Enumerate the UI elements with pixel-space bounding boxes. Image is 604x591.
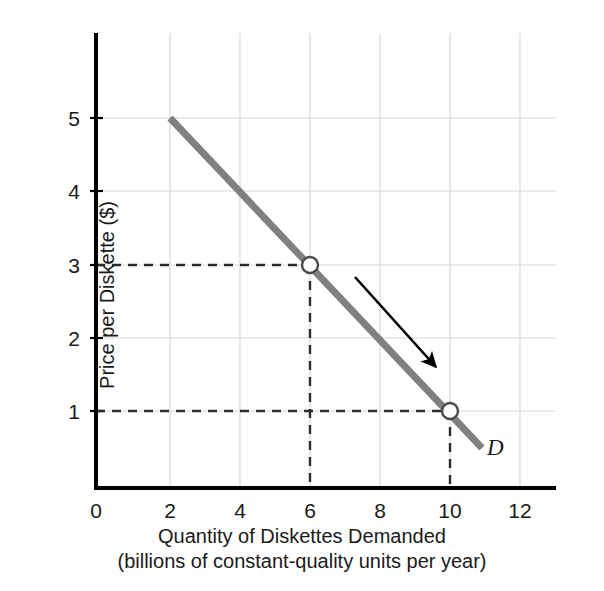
ytick-label-3: 3: [68, 255, 80, 276]
data-point-marker-6-3: [302, 257, 318, 273]
xtick-label-12: 12: [508, 500, 531, 521]
x-axis-title-line1: Quantity of Diskettes Demanded: [0, 524, 604, 549]
xtick-label-2: 2: [164, 500, 176, 521]
xtick-label-0: 0: [90, 500, 102, 521]
vertical-gridlines: [170, 33, 520, 488]
xtick-label-10: 10: [438, 500, 461, 521]
x-axis-title-line2: (billions of constant-quality units per …: [0, 549, 604, 574]
demand-curve: [170, 118, 482, 448]
ytick-label-1: 1: [68, 401, 80, 422]
guide-lines: [96, 265, 450, 488]
data-point-marker-10-1: [442, 403, 458, 419]
xtick-label-8: 8: [374, 500, 386, 521]
xtick-label-4: 4: [234, 500, 246, 521]
xtick-label-6: 6: [304, 500, 316, 521]
ytick-label-2: 2: [68, 328, 80, 349]
demand-curve-label: D: [487, 435, 504, 461]
demand-curve-chart: 5 4 3 2 1 0 2 4 6 8 10 12 Price per Disk…: [0, 0, 604, 591]
x-axis-title: Quantity of Diskettes Demanded (billions…: [0, 524, 604, 574]
ytick-label-5: 5: [68, 108, 80, 129]
ytick-label-4: 4: [68, 181, 80, 202]
y-axis-title: Price per Diskette ($): [96, 201, 119, 389]
